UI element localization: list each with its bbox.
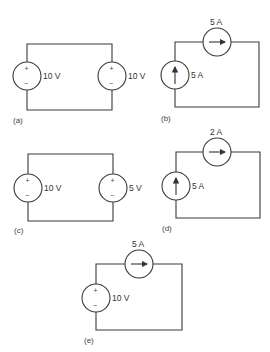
current-source-top — [203, 138, 231, 166]
source-value: 2 A — [210, 127, 223, 137]
plus-sign: + — [94, 287, 98, 294]
wire-bottom — [27, 90, 112, 110]
circuit-e: 5 A + − 10 V (e) — [82, 239, 182, 345]
wire-top — [27, 44, 112, 62]
circuit-label: (d) — [162, 224, 172, 233]
current-source-top — [125, 250, 153, 278]
wire-top — [28, 154, 113, 174]
source-value: 5 V — [129, 183, 142, 193]
minus-sign: − — [24, 80, 28, 87]
source-value: 5 A — [192, 181, 205, 191]
minus-sign: − — [25, 192, 29, 199]
voltage-source-right: + − — [99, 174, 127, 202]
source-value: 10 V — [112, 293, 130, 303]
source-value: 5 A — [191, 70, 204, 80]
plus-sign: + — [111, 177, 115, 184]
source-value: 10 V — [43, 71, 61, 81]
circuit-c: + − 10 V + − 5 V (c) — [14, 154, 142, 235]
source-value: 10 V — [128, 71, 146, 81]
minus-sign: − — [93, 302, 97, 309]
source-value: 5 A — [210, 17, 223, 27]
plus-sign: + — [26, 177, 30, 184]
voltage-source-left: + − — [13, 62, 41, 90]
circuit-label: (a) — [13, 116, 23, 125]
wire-bottom — [28, 202, 113, 221]
circuit-figure: + − 10 V + − 10 V (a) 5 A 5 A (b) + — [0, 0, 270, 352]
circuit-d: 2 A 5 A (d) — [162, 127, 260, 233]
source-value: 10 V — [44, 183, 62, 193]
voltage-source-left: + − — [82, 284, 110, 312]
current-source-top — [203, 28, 231, 56]
current-source-left — [161, 61, 189, 89]
voltage-source-right: + − — [98, 62, 126, 90]
circuit-b: 5 A 5 A (b) — [161, 17, 259, 123]
minus-sign: − — [110, 192, 114, 199]
plus-sign: + — [110, 65, 114, 72]
circuit-a: + − 10 V + − 10 V (a) — [13, 44, 146, 125]
circuit-label: (b) — [161, 114, 171, 123]
circuit-label: (e) — [84, 336, 94, 345]
voltage-source-left: + − — [14, 174, 42, 202]
current-source-left — [162, 172, 190, 200]
minus-sign: − — [109, 80, 113, 87]
circuit-label: (c) — [14, 226, 24, 235]
source-value: 5 A — [132, 239, 145, 249]
plus-sign: + — [25, 65, 29, 72]
